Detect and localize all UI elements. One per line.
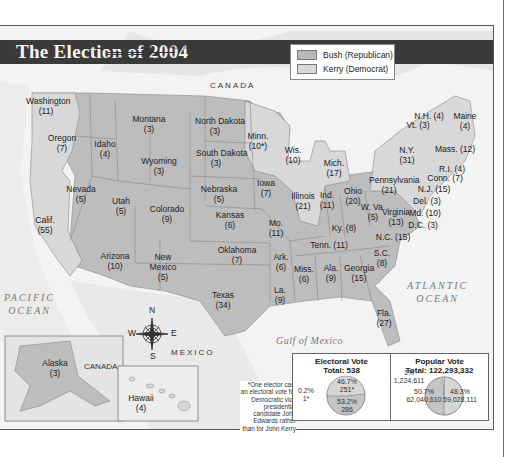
state-label: Pennsylvania(21) <box>369 175 409 195</box>
scale-mi-200: 200 <box>140 43 152 50</box>
state-label-northeast: Vt. (3) <box>395 120 441 130</box>
state-label: Wis.(10) <box>273 145 313 165</box>
state-name: Montana <box>129 114 169 124</box>
state-label: Texas(34) <box>203 290 243 310</box>
state-label: Oklahoma(7) <box>217 245 257 265</box>
state-label: Wyoming(3) <box>139 156 179 176</box>
legend: Bush (Republican) Kerry (Democrat) <box>290 44 395 80</box>
page-edge-line <box>503 0 504 457</box>
state-label: North Dakota(3) <box>195 116 235 136</box>
state-label: Hawaii(4) <box>121 393 161 413</box>
legend-item-kerry: Kerry (Democrat) <box>297 64 388 74</box>
state-name: Nebraska <box>199 184 239 194</box>
state-name: Pennsylvania <box>369 175 409 185</box>
state-electoral-votes: (10) <box>273 155 313 165</box>
label-gulf-of-mexico: Gulf of Mexico <box>276 334 343 347</box>
state-electoral-votes: (55) <box>25 225 65 235</box>
state-name: Tenn. (11) <box>309 240 349 250</box>
state-label: La.(9) <box>260 285 300 305</box>
state-electoral-votes: (21) <box>369 185 409 195</box>
label-mexico: MEXICO <box>171 348 215 357</box>
state-electoral-votes: (5) <box>61 194 101 204</box>
legend-label-kerry: Kerry (Democrat) <box>323 64 388 74</box>
scale-mi-0: 0 <box>106 43 110 50</box>
state-electoral-votes: (9) <box>147 214 187 224</box>
state-name: Washington <box>26 96 66 106</box>
legend-label-bush: Bush (Republican) <box>323 50 393 60</box>
scale-km-0: 0 <box>106 56 110 63</box>
state-electoral-votes: (11) <box>256 228 296 238</box>
state-name: Mich. <box>314 158 354 168</box>
state-label: Georgia(15) <box>339 263 379 283</box>
state-label: Idaho(4) <box>85 139 125 159</box>
state-name: Calif. <box>25 215 65 225</box>
label-canada: CANADA <box>210 81 255 90</box>
state-label-northeast: N.Y. (31) <box>384 145 430 165</box>
state-label-northeast: Maine (4) <box>442 111 488 131</box>
state-name: Mo. <box>256 218 296 228</box>
state-label: Alaska(3) <box>35 358 75 378</box>
state-electoral-votes: (15) <box>339 273 379 283</box>
scale-km-200: 200 <box>118 56 130 63</box>
state-electoral-votes: (4) <box>85 149 125 159</box>
state-electoral-votes: (7) <box>217 255 257 265</box>
state-name: Nevada <box>61 184 101 194</box>
compass-n: N <box>149 305 155 315</box>
state-label: Ky. (8) <box>324 223 364 233</box>
state-label: Mich.(17) <box>314 158 354 178</box>
electoral-title-text: Electoral Vote <box>293 357 390 366</box>
label-atlantic-ocean: ATLANTIC OCEAN <box>407 279 468 305</box>
electoral-total-text: Total: 538 <box>293 366 390 375</box>
state-label: Calif.(55) <box>25 215 65 235</box>
state-label: N.C. (15) <box>373 232 413 242</box>
state-electoral-votes: (11) <box>26 106 66 116</box>
state-name: Iowa <box>246 178 286 188</box>
scale-km-400: 400 km <box>142 56 165 63</box>
popular-title-text: Popular Vote <box>391 357 488 366</box>
state-electoral-votes: (34) <box>203 300 243 310</box>
state-name: S.C. <box>362 248 402 258</box>
state-label-northeast: Del. (3) <box>404 196 450 206</box>
state-label: Tenn. (11) <box>309 240 349 250</box>
label-canada-inset: CANADA <box>84 362 117 371</box>
state-electoral-votes: (5) <box>101 206 141 216</box>
popular-other-label: 1% 1,224,611 <box>391 369 427 385</box>
state-electoral-votes: (3) <box>195 126 235 136</box>
state-label: New Mexico(5) <box>143 252 183 282</box>
state-name: Fla. <box>364 308 404 318</box>
state-electoral-votes: (4) <box>121 403 161 413</box>
popular-bush-label: 50.7% 62,040,610 <box>406 388 442 404</box>
state-label: Washington(11) <box>26 96 66 116</box>
state-label-northeast: Conn. (7) <box>422 173 468 183</box>
label-pacific-ocean: PACIFIC OCEAN <box>4 291 55 317</box>
state-label: Nebraska(5) <box>199 184 239 204</box>
pacific-text: PACIFIC OCEAN <box>4 292 55 316</box>
state-electoral-votes: (3) <box>129 124 169 134</box>
state-name: N.C. (15) <box>373 232 413 242</box>
state-label: Oregon(7) <box>42 133 82 153</box>
electoral-edwards-label: 0.2% 1* <box>294 387 318 403</box>
electoral-vote-title: Electoral Vote Total: 538 <box>293 357 390 375</box>
title-bar: The Election of 2004 <box>0 40 493 64</box>
state-name: Idaho <box>85 139 125 149</box>
state-label: Arizona(10) <box>95 251 135 271</box>
compass-w: W <box>128 328 136 338</box>
state-electoral-votes: (6) <box>210 220 250 230</box>
state-name: Texas <box>203 290 243 300</box>
state-name: Ky. (8) <box>324 223 364 233</box>
state-name: Alaska <box>35 358 75 368</box>
legend-swatch-bush <box>297 50 317 60</box>
vote-charts-panel: Electoral Vote Total: 538 46.7% 251* 53.… <box>292 353 489 421</box>
atlantic-text: ATLANTIC OCEAN <box>407 280 468 304</box>
state-name: Wyoming <box>139 156 179 166</box>
state-name: Minn. <box>238 131 278 141</box>
state-name: Ark. <box>261 252 301 262</box>
state-electoral-votes: (5) <box>143 272 183 282</box>
electoral-kerry-label: 46.7% 251* <box>332 378 362 394</box>
state-electoral-votes: (5) <box>199 194 239 204</box>
state-electoral-votes: (7) <box>246 188 286 198</box>
state-label: Iowa(7) <box>246 178 286 198</box>
state-electoral-votes: (10*) <box>238 141 278 151</box>
state-electoral-votes: (3) <box>139 166 179 176</box>
state-label: Fla.(27) <box>364 308 404 328</box>
